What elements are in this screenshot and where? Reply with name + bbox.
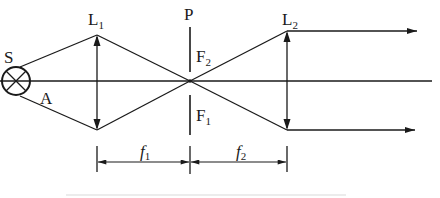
dimension-lines [97,146,287,174]
label-f1-focus: F1 [196,106,211,127]
label-dim-f2: f2 [236,142,246,162]
caption-remnant [66,194,346,196]
ray-l1-upper-to-focus [97,35,190,81]
lens-l1 [94,35,101,130]
label-point-a: A [40,89,53,108]
ray-source-upper [20,35,97,67]
label-l2: L2 [282,10,298,31]
label-l1: L1 [88,10,104,31]
label-source: S [4,48,13,67]
ray-l1-lower-to-focus [97,81,190,130]
label-f2-focus: F2 [196,47,211,68]
label-plane-p: P [184,5,193,24]
ray-source-lower [20,96,97,130]
label-dim-f1: f1 [140,142,150,162]
optics-diagram: S A L1 P F2 F1 L2 f1 f2 [0,0,440,198]
